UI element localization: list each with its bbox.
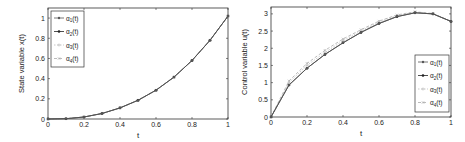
marker <box>396 15 398 17</box>
y-tick-label: 0 <box>41 116 45 123</box>
marker <box>47 118 49 120</box>
y-tick-label: 2.5 <box>258 28 268 35</box>
y-axis-label: Control variable u(t) <box>240 29 249 95</box>
marker <box>422 74 425 77</box>
x-tick-label: 0.6 <box>151 121 161 128</box>
marker <box>65 117 67 119</box>
x-tick-label: 0.2 <box>79 121 89 128</box>
y-tick-label: 1.5 <box>258 62 268 69</box>
marker <box>432 13 434 15</box>
y-tick-label: 0 <box>264 114 268 121</box>
marker <box>306 67 308 69</box>
y-tick-label: 0.5 <box>258 96 268 103</box>
y-tick-label: 1 <box>264 79 268 86</box>
marker <box>173 76 175 78</box>
x-tick-label: 0.4 <box>338 119 348 126</box>
x-tick-label: 0 <box>269 119 273 126</box>
x-tick-label: 1 <box>226 121 230 128</box>
x-tick-label: 1 <box>449 119 453 126</box>
figure: 00.20.40.60.8100.20.40.60.81tState varia… <box>0 0 465 142</box>
x-tick-label: 0.6 <box>374 119 384 126</box>
marker <box>450 20 452 22</box>
y-tick-label: 2 <box>264 45 268 52</box>
marker <box>378 22 380 24</box>
marker <box>101 112 103 114</box>
y-tick-label: 0.2 <box>35 95 45 102</box>
x-axis-label: t <box>360 129 363 138</box>
marker <box>83 116 85 118</box>
marker <box>227 15 229 17</box>
marker <box>119 107 121 109</box>
y-tick-label: 0.6 <box>35 55 45 62</box>
marker <box>360 31 362 33</box>
x-tick-label: 0 <box>46 121 50 128</box>
marker <box>288 84 290 86</box>
y-tick-label: 1 <box>41 15 45 22</box>
control-chart: 00.20.40.60.8100.511.522.53tControl vari… <box>240 7 453 138</box>
y-tick-label: 0.4 <box>35 75 45 82</box>
marker <box>209 39 211 41</box>
x-tick-label: 0.8 <box>187 121 197 128</box>
x-tick-label: 0.4 <box>115 121 125 128</box>
state-chart: 00.20.40.60.8100.20.40.60.81tState varia… <box>17 8 230 140</box>
marker <box>191 59 193 61</box>
legend: α1(t)α2(t)α3(t)α4(t) <box>51 11 84 67</box>
marker <box>324 53 326 55</box>
x-tick-label: 0.2 <box>302 119 312 126</box>
marker <box>414 12 416 14</box>
marker <box>342 42 344 44</box>
y-axis-label: State variable x(t) <box>17 34 26 93</box>
marker <box>58 30 61 33</box>
y-tick-label: 3 <box>264 10 268 17</box>
marker <box>422 61 424 63</box>
y-tick-label: 0.8 <box>35 35 45 42</box>
marker <box>270 116 272 118</box>
marker <box>58 17 60 19</box>
legend: α1(t)α2(t)α3(t)α4(t) <box>415 55 449 112</box>
marker <box>137 99 139 101</box>
marker <box>155 89 157 91</box>
x-axis-label: t <box>137 131 140 140</box>
x-tick-label: 0.8 <box>410 119 420 126</box>
